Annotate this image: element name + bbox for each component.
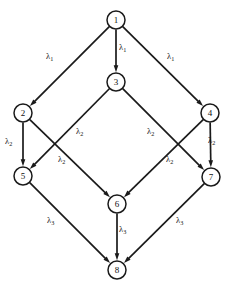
edge-label-e6-8: λ3 [119,225,126,234]
edge-label-subscript: 1 [171,55,174,62]
node-label-2: 2 [21,108,26,118]
arrowhead-6-to-8 [115,253,120,260]
node-8[interactable]: 8 [108,261,126,279]
edge-label-subscript: 2 [62,158,65,165]
node-label-5: 5 [21,171,26,181]
edge-label-subscript: 3 [51,219,54,226]
edge-label-e3-5: λ2 [76,127,83,136]
node-2[interactable]: 2 [14,104,32,122]
edge-1-to-4 [123,27,200,103]
node-label-7: 7 [209,172,214,182]
node-label-8: 8 [115,265,120,275]
edge-label-e4-7: λ2 [208,136,215,145]
edge-label-subscript: 3 [123,228,126,235]
edge-3-to-7 [123,89,201,167]
arrowhead-2-to-5 [21,159,26,166]
arrowhead-4-to-7 [208,160,213,167]
node-1[interactable]: 1 [107,11,125,29]
node-7[interactable]: 7 [202,168,220,186]
node-label-4: 4 [208,108,213,118]
edge-label-subscript: 1 [123,46,126,53]
edge-label-e7-8: λ3 [176,216,183,225]
graph-canvas: 12345678 [0,0,234,285]
transition-diagram: 12345678 λ1λ1λ1λ2λ2λ2λ2λ2λ2λ3λ3λ3 [0,0,234,285]
edge-label-e2-6: λ2 [58,155,65,164]
edge-7-to-8 [128,184,205,260]
edge-label-subscript: 2 [80,130,83,137]
edge-label-e1-3: λ1 [119,43,126,52]
edge-label-e1-2: λ1 [46,52,53,61]
edge-5-to-8 [30,183,107,260]
node-label-3: 3 [114,77,119,87]
edge-label-e4-6: λ2 [166,155,173,164]
edge-label-subscript: 3 [180,219,183,226]
edge-label-subscript: 2 [170,158,173,165]
node-label-1: 1 [114,15,119,25]
edge-label-e3-7: λ2 [147,127,154,136]
edge-label-e2-5: λ2 [5,137,12,146]
edges-group [21,27,213,263]
node-3[interactable]: 3 [107,73,125,91]
edge-label-subscript: 2 [9,140,12,147]
edge-1-to-2 [34,27,110,103]
node-label-6: 6 [115,199,120,209]
edge-label-subscript: 2 [212,139,215,146]
node-6[interactable]: 6 [108,195,126,213]
node-4[interactable]: 4 [201,104,219,122]
edge-label-e5-8: λ3 [47,216,54,225]
arrowhead-1-to-3 [114,65,119,72]
node-5[interactable]: 5 [14,167,32,185]
edge-label-subscript: 2 [151,130,154,137]
edge-label-e1-4: λ1 [167,52,174,61]
edge-3-to-5 [34,89,110,166]
edge-label-subscript: 1 [50,55,53,62]
